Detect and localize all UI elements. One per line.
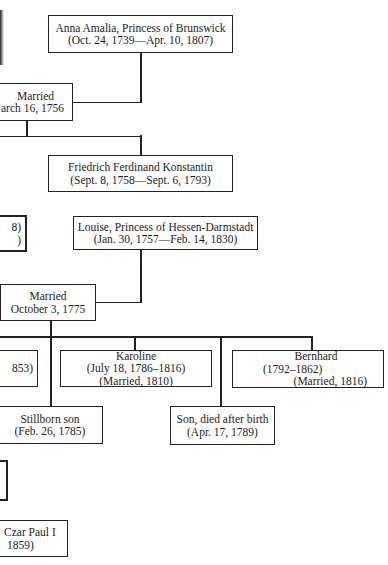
node-louise: Louise, Princess of Hessen-Darmstadt (Ja…: [73, 216, 258, 250]
node-karoline: Karoline (July 18, 1786–1816) (Married, …: [60, 350, 212, 387]
node-text: ): [0, 234, 21, 247]
node-bernhard: Bernhard (1792–1862) (Married, 1816): [232, 350, 384, 388]
node-dates: (Apr. 17, 1789): [171, 426, 274, 439]
node-friedrich: Friedrich Ferdinand Konstantin (Sept. 8,…: [48, 155, 233, 192]
connector-line: [95, 302, 142, 304]
marriage-date: October 3, 1775: [1, 303, 95, 316]
node-dates: (1792–1862): [239, 363, 377, 376]
connector-line: [0, 136, 142, 138]
node-dates: (Oct. 24, 1739—Apr. 10, 1807): [49, 34, 232, 47]
connector-line: [72, 102, 142, 104]
connector-line: [134, 336, 136, 351]
node-name: Son, died after birth: [171, 413, 274, 426]
node-son-died-after-birth: Son, died after birth (Apr. 17, 1789): [170, 406, 275, 445]
node-partial-child: 853): [0, 350, 38, 387]
node-text: 853): [0, 362, 33, 375]
node-partial-bracket: [0, 460, 8, 501]
node-anna-amalia: Anna Amalia, Princess of Brunswick (Oct.…: [48, 15, 233, 53]
node-name: Louise, Princess of Hessen-Darmstadt: [74, 221, 257, 234]
node-marriage-1775: Married October 3, 1775: [0, 284, 96, 321]
node-dates: (Sept. 8, 1758—Sept. 6, 1793): [49, 174, 232, 187]
node-text: 1859): [4, 539, 67, 552]
node-marriage-1756: Married arch 16, 1756: [0, 83, 73, 121]
page-edge-shadow: [0, 10, 4, 65]
node-dates: (Feb. 26, 1785): [0, 425, 102, 438]
marriage-date: arch 16, 1756: [0, 102, 72, 115]
connector-line: [50, 320, 52, 407]
node-name: Anna Amalia, Princess of Brunswick: [49, 22, 232, 35]
marriage-label: Married: [0, 90, 72, 103]
connector-line: [140, 249, 142, 303]
connector-line: [311, 336, 313, 351]
connector-line: [140, 52, 142, 103]
node-text: 8): [0, 221, 21, 234]
node-name: Karoline: [61, 350, 211, 362]
node-czar-paul: Czar Paul I 1859): [0, 520, 68, 557]
connector-line: [220, 336, 222, 407]
node-name: Bernhard: [239, 350, 377, 363]
node-name: Friedrich Ferdinand Konstantin: [49, 161, 232, 174]
node-dates: (July 18, 1786–1816): [61, 362, 211, 375]
connector-line: [140, 135, 142, 156]
node-stillborn-son: Stillborn son (Feb. 26, 1785): [0, 406, 103, 444]
node-name: Stillborn son: [0, 413, 102, 426]
node-partial-left: 8) ): [0, 215, 27, 252]
node-note: (Married, 1816): [239, 375, 377, 388]
connector-line: [0, 336, 313, 338]
connector-line: [26, 120, 28, 137]
marriage-label: Married: [1, 290, 95, 303]
node-text: Czar Paul I: [4, 526, 67, 539]
node-note: (Married, 1810): [61, 375, 211, 387]
node-dates: (Jan. 30, 1757—Feb. 14, 1830): [74, 233, 257, 246]
